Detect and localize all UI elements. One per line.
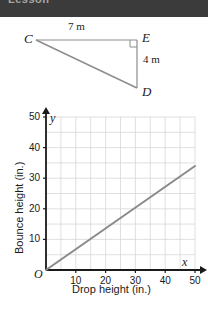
right-angle-marker-icon <box>130 40 137 47</box>
y-axis-name: y <box>50 112 55 124</box>
side-length-top: 7 m <box>68 21 85 32</box>
coordinate-graph: y x O 1020304050 1020304050 Bounce heigh… <box>0 104 208 312</box>
grid-lines <box>46 117 195 270</box>
y-tick-label: 50 <box>24 112 40 122</box>
x-tick-label: 50 <box>187 276 203 286</box>
y-axis-arrow-icon <box>42 107 50 114</box>
vertex-label-d: D <box>142 85 151 98</box>
y-axis-title: Bounce height (in.) <box>14 162 25 254</box>
side-length-right: 4 m <box>143 54 160 65</box>
vertex-label-c: C <box>24 32 33 45</box>
y-tick-label: 10 <box>24 234 40 244</box>
y-tick-label: 20 <box>24 204 40 214</box>
top-banner: Lesson <box>0 0 208 17</box>
x-axis-arrow-icon <box>200 266 207 274</box>
vertex-label-e: E <box>142 31 150 44</box>
y-tick-label: 40 <box>24 143 40 153</box>
segment-CD <box>36 40 137 88</box>
y-tick-label: 30 <box>24 173 40 183</box>
top-banner-text: Lesson <box>8 0 50 5</box>
x-tick-label: 40 <box>157 276 173 286</box>
origin-label: O <box>34 267 43 282</box>
triangle-figure: C E D 7 m 4 m <box>0 17 208 110</box>
x-axis-title: Drop height (in.) <box>72 284 151 295</box>
x-axis-name: x <box>182 256 187 268</box>
